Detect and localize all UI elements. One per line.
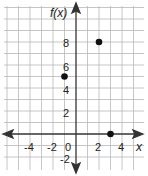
x-axis-right-arrow-icon [133, 130, 143, 138]
y-axis-up-arrow-icon [72, 3, 80, 13]
y-axis-down-arrow-icon [72, 163, 80, 173]
data-point [61, 73, 68, 80]
x-tick-2: 2 [95, 141, 101, 153]
x-tick-origin: 0 [65, 141, 71, 153]
y-tick-6: 6 [63, 61, 69, 73]
x-tick-4: 4 [118, 141, 124, 153]
x-axis-left-arrow-icon [3, 130, 13, 138]
x-tick-neg4: -4 [24, 141, 34, 153]
y-axis-label: f(x) [50, 6, 67, 20]
y-tick-8: 8 [63, 37, 69, 49]
y-tick-neg2: -2 [60, 153, 70, 165]
y-tick-2: 2 [63, 107, 69, 119]
data-point [107, 131, 114, 138]
data-point [96, 39, 103, 46]
y-tick-4: 4 [63, 84, 69, 96]
x-axis-label: x [135, 140, 143, 154]
coordinate-plane: f(x) x 8 6 4 2 -2 -4 -2 0 2 4 [0, 0, 148, 176]
x-tick-neg2: -2 [47, 141, 57, 153]
